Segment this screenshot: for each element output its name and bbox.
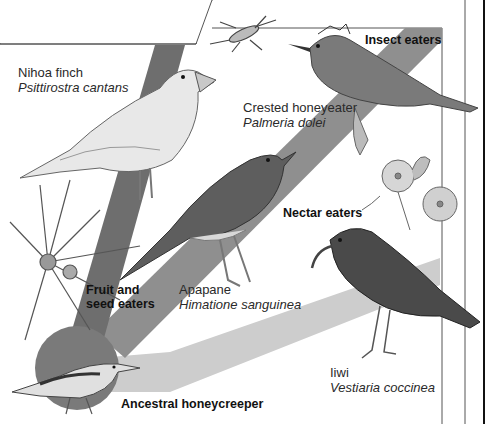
group-label-fruit-seed-line2: seed eaters <box>86 297 155 311</box>
group-label-fruit-seed-line1: Fruit and <box>86 283 139 297</box>
species-common-name-crested-honeyeater: Crested honeyeater <box>243 101 357 116</box>
species-common-name-apapane: Apapane <box>179 283 231 298</box>
species-common-name-iiwi: Iiwi <box>330 366 349 381</box>
group-label-nectar-eaters: Nectar eaters <box>283 206 362 220</box>
species-common-name-nihoa-finch: Nihoa finch <box>18 66 83 81</box>
honeycreeper-diagram: Nihoa finch Psittirostra cantans Crested… <box>0 0 486 424</box>
group-label-insect-eaters: Insect eaters <box>365 33 441 47</box>
species-scientific-name-crested-honeyeater: Palmeria dolei <box>243 116 325 131</box>
insect-illustration <box>210 16 276 52</box>
iiwi-illustration <box>312 228 480 358</box>
species-scientific-name-nihoa-finch: Psittirostra cantans <box>18 81 129 96</box>
root-label-ancestral-honeycreeper: Ancestral honeycreeper <box>121 397 263 411</box>
species-scientific-name-iiwi: Vestiaria coccinea <box>330 381 435 396</box>
diagram-artwork <box>0 0 486 424</box>
flowers-illustration <box>362 157 457 230</box>
species-scientific-name-apapane: Himatione sanguinea <box>179 298 301 313</box>
